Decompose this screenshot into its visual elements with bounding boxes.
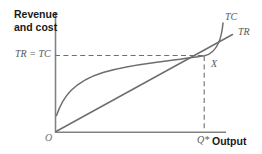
break-even-quantity-label: Q* xyxy=(197,135,209,145)
break-even-chart-figure: Revenue and cost Output TR = TC TC TR X … xyxy=(0,0,262,154)
x-axis-title: Output xyxy=(212,136,246,147)
origin-label: O xyxy=(45,133,52,143)
total-cost-curve xyxy=(57,23,224,116)
total-revenue-curve-label: TR xyxy=(238,27,250,37)
total-cost-curve-label: TC xyxy=(225,12,237,22)
y-axis-title-line-1: Revenue xyxy=(14,9,58,20)
total-revenue-line xyxy=(56,35,233,132)
break-even-value-label: TR = TC xyxy=(15,49,51,59)
break-even-point-label: X xyxy=(211,59,217,69)
y-axis-title-line-2: and cost xyxy=(14,22,57,33)
